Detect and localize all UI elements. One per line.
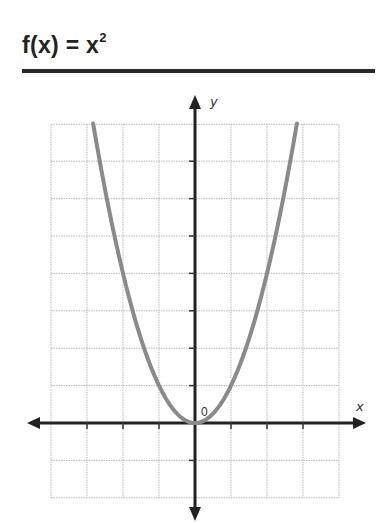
origin-label: 0: [201, 405, 208, 419]
plot-area: y x 0: [0, 0, 391, 523]
axes: [27, 95, 366, 521]
x-axis-left-arrow-icon: [27, 417, 40, 429]
y-axis-up-arrow-icon: [189, 95, 201, 109]
y-axis-label: y: [209, 94, 218, 109]
x-axis-label: x: [355, 399, 364, 414]
y-axis-down-arrow-icon: [189, 507, 201, 521]
x-axis-right-arrow-icon: [353, 417, 366, 429]
